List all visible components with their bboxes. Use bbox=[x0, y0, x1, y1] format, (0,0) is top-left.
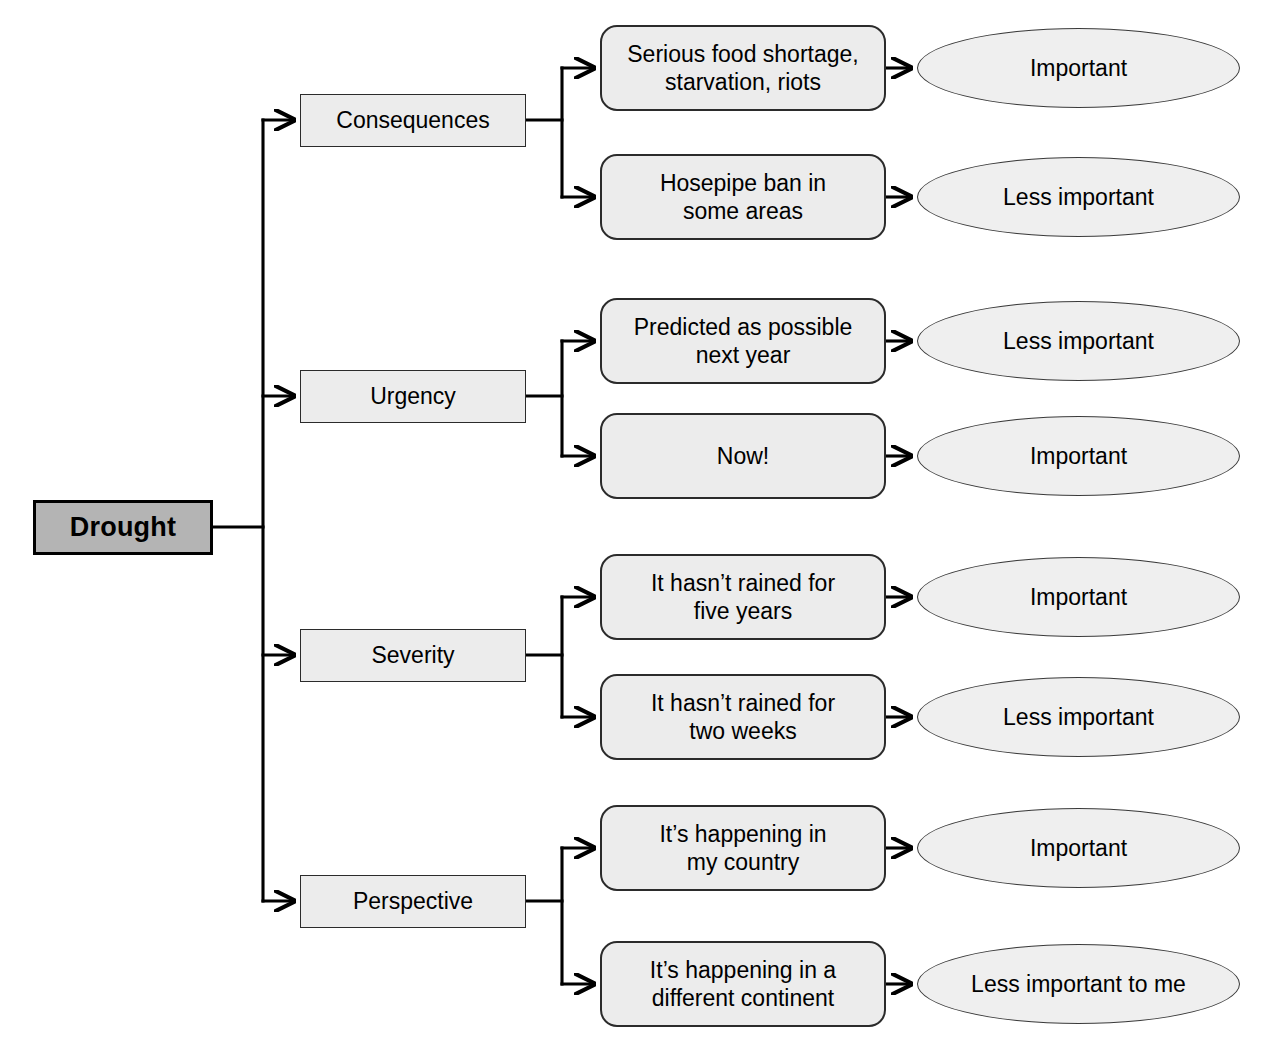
outcome-node-consequences-severe[interactable]: Important bbox=[917, 28, 1240, 108]
category-node-label: Perspective bbox=[353, 887, 473, 915]
outcome-node-urgency-future[interactable]: Less important bbox=[917, 301, 1240, 381]
category-node-label: Severity bbox=[371, 641, 454, 669]
outcome-node-consequences-mild[interactable]: Less important bbox=[917, 157, 1240, 237]
detail-node-label: It’s happening in a different continent bbox=[650, 956, 836, 1012]
detail-node-label: It’s happening in my country bbox=[659, 820, 826, 876]
detail-node-severity-low[interactable]: It hasn’t rained for two weeks bbox=[600, 674, 886, 760]
outcome-node-label: Less important bbox=[1003, 327, 1154, 355]
category-node-perspective[interactable]: Perspective bbox=[300, 875, 526, 928]
figure-caption-cutoff bbox=[0, 1046, 1267, 1058]
category-node-label: Consequences bbox=[336, 106, 489, 134]
outcome-node-severity-high[interactable]: Important bbox=[917, 557, 1240, 637]
outcome-node-label: Important bbox=[1030, 834, 1127, 862]
detail-node-label: Predicted as possible next year bbox=[634, 313, 853, 369]
detail-node-consequences-severe[interactable]: Serious food shortage, starvation, riots bbox=[600, 25, 886, 111]
detail-node-perspective-distant[interactable]: It’s happening in a different continent bbox=[600, 941, 886, 1027]
outcome-node-label: Important bbox=[1030, 583, 1127, 611]
outcome-node-label: Important bbox=[1030, 442, 1127, 470]
detail-node-label: It hasn’t rained for two weeks bbox=[651, 689, 835, 745]
detail-node-perspective-local[interactable]: It’s happening in my country bbox=[600, 805, 886, 891]
detail-node-urgency-present[interactable]: Now! bbox=[600, 413, 886, 499]
outcome-node-label: Less important bbox=[1003, 183, 1154, 211]
detail-node-severity-high[interactable]: It hasn’t rained for five years bbox=[600, 554, 886, 640]
outcome-node-perspective-distant[interactable]: Less important to me bbox=[917, 944, 1240, 1024]
outcome-node-urgency-present[interactable]: Important bbox=[917, 416, 1240, 496]
outcome-node-severity-low[interactable]: Less important bbox=[917, 677, 1240, 757]
root-node-drought[interactable]: Drought bbox=[33, 500, 213, 555]
detail-node-label: Hosepipe ban in some areas bbox=[660, 169, 826, 225]
outcome-node-perspective-local[interactable]: Important bbox=[917, 808, 1240, 888]
outcome-node-label: Important bbox=[1030, 54, 1127, 82]
outcome-node-label: Less important to me bbox=[971, 970, 1186, 998]
detail-node-label: Serious food shortage, starvation, riots bbox=[627, 40, 858, 96]
root-node-label: Drought bbox=[70, 511, 176, 544]
detail-node-consequences-mild[interactable]: Hosepipe ban in some areas bbox=[600, 154, 886, 240]
category-node-label: Urgency bbox=[370, 382, 456, 410]
detail-node-label: It hasn’t rained for five years bbox=[651, 569, 835, 625]
outcome-node-label: Less important bbox=[1003, 703, 1154, 731]
detail-node-urgency-future[interactable]: Predicted as possible next year bbox=[600, 298, 886, 384]
diagram-canvas: Drought Consequences Urgency Severity Pe… bbox=[0, 0, 1267, 1058]
category-node-severity[interactable]: Severity bbox=[300, 629, 526, 682]
detail-node-label: Now! bbox=[717, 442, 769, 470]
category-node-urgency[interactable]: Urgency bbox=[300, 370, 526, 423]
category-node-consequences[interactable]: Consequences bbox=[300, 94, 526, 147]
